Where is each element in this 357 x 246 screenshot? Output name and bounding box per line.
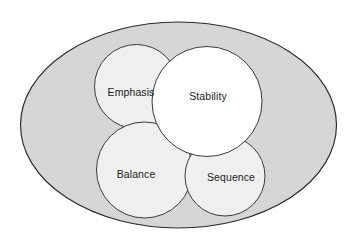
- label-sequence: Sequence: [207, 171, 255, 183]
- label-emphasis: Emphasis: [108, 86, 155, 98]
- venn-diagram-svg: Emphasis Stability Balance Sequence: [0, 0, 357, 246]
- venn-diagram-canvas: Emphasis Stability Balance Sequence: [0, 0, 357, 246]
- label-balance: Balance: [117, 168, 156, 180]
- label-stability: Stability: [189, 90, 227, 102]
